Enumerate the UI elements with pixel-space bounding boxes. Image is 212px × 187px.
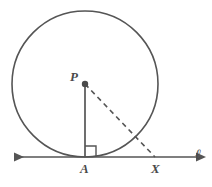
right-angle-mark bbox=[85, 146, 96, 157]
center-point-dot bbox=[82, 81, 88, 87]
label-line-ell: ℓ bbox=[195, 148, 201, 162]
label-point-x: X bbox=[151, 162, 160, 175]
geometry-figure: P A X ℓ bbox=[0, 0, 212, 187]
label-point-a: A bbox=[80, 162, 89, 175]
label-point-p: P bbox=[70, 70, 78, 83]
geometry-canvas bbox=[0, 0, 212, 187]
